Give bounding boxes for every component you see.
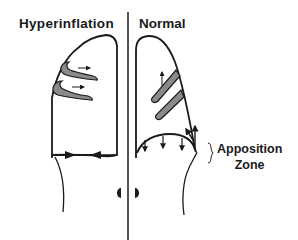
diagram-canvas — [0, 0, 298, 240]
left-half-circle-icon — [117, 188, 121, 198]
arrow-left-icon — [90, 151, 101, 159]
normal-ribs — [152, 70, 184, 119]
apposition-brace — [208, 143, 213, 163]
domed-diaphragm — [137, 126, 196, 153]
arrow-right-icon — [65, 151, 76, 159]
hyperinflation-ribs — [53, 62, 98, 100]
normal-chest-outline — [136, 36, 195, 158]
flattened-diaphragm — [52, 151, 117, 159]
right-half-circle-icon — [135, 188, 139, 198]
normal-abdomen-outline — [183, 152, 197, 215]
hyperinflation-abdomen-outline — [55, 157, 64, 212]
